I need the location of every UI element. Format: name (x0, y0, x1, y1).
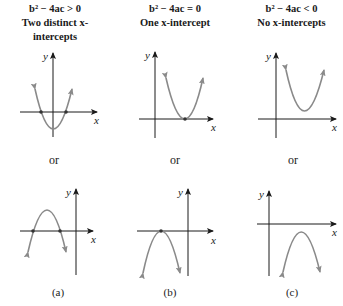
panel-label-a: (a) (43, 286, 73, 298)
parabola-curve (286, 70, 324, 111)
svg-text:y: y (258, 188, 264, 200)
graph-bottom-b: y x (137, 186, 216, 276)
graph-bottom-a: y x (20, 186, 96, 275)
svg-text:y: y (42, 50, 48, 62)
or-separator-a: or (39, 153, 69, 168)
parabola-curve (143, 231, 180, 273)
intercept-point (64, 110, 68, 114)
svg-text:x: x (210, 234, 216, 246)
graph-top-a: y x (20, 50, 99, 137)
intercept-point (159, 229, 163, 233)
svg-text:x: x (93, 114, 99, 126)
or-separator-c: or (278, 153, 308, 168)
svg-text:y: y (144, 49, 150, 61)
svg-text:y: y (265, 50, 271, 62)
graph-top-b: y x (139, 49, 216, 138)
svg-text:x: x (210, 121, 216, 133)
graph-bottom-c: y x (257, 188, 337, 276)
intercept-point (58, 229, 62, 233)
intercept-point (39, 110, 43, 114)
intercept-point (31, 229, 35, 233)
svg-text:x: x (331, 226, 337, 238)
parabola-curve (283, 232, 320, 272)
or-separator-b: or (160, 153, 190, 168)
svg-text:x: x (90, 233, 96, 245)
panel-label-c: (c) (277, 286, 307, 298)
panel-label-b: (b) (155, 286, 185, 298)
svg-text:y: y (65, 186, 71, 198)
svg-text:y: y (177, 186, 183, 198)
graph-top-c: y x (258, 50, 337, 138)
svg-text:x: x (331, 121, 337, 133)
parabola-curve (166, 78, 203, 119)
intercept-point (183, 117, 187, 121)
